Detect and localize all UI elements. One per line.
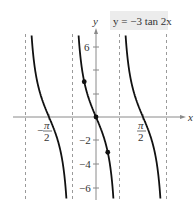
tangent-graph: y = −3 tan 2x y x 6 −2 −4 −6 − π 2 π 2 bbox=[0, 0, 195, 209]
y-tick-neg2: −2 bbox=[79, 134, 91, 146]
data-point-1 bbox=[82, 79, 87, 84]
x-tick-neg-pi-over-2: − π 2 bbox=[37, 119, 52, 143]
svg-text:2: 2 bbox=[138, 131, 144, 143]
y-tick-neg4: −4 bbox=[79, 158, 91, 170]
data-point-2 bbox=[94, 115, 99, 120]
svg-text:2: 2 bbox=[44, 131, 50, 143]
x-axis-label: x bbox=[187, 111, 193, 123]
x-axis-arrow-icon bbox=[180, 115, 186, 119]
svg-text:π: π bbox=[44, 119, 50, 131]
axes bbox=[13, 28, 186, 200]
svg-text:−: − bbox=[37, 124, 43, 136]
y-axis-label: y bbox=[92, 15, 98, 27]
y-axis-arrow-icon bbox=[94, 28, 98, 34]
y-tick-neg6: −6 bbox=[79, 182, 91, 194]
chart-title: y = −3 tan 2x bbox=[113, 15, 172, 27]
y-tick-6: 6 bbox=[84, 41, 90, 53]
data-point-3 bbox=[105, 150, 110, 155]
svg-text:π: π bbox=[138, 119, 144, 131]
